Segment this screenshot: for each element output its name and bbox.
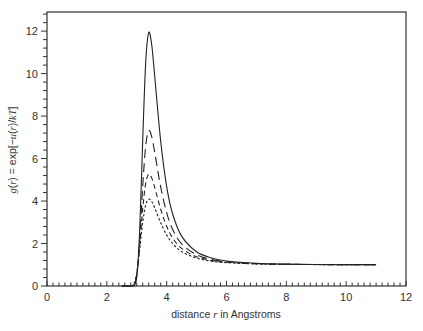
- x-tick-label: 12: [400, 291, 412, 303]
- x-tick-label: 0: [44, 291, 50, 303]
- y-tick-label: 12: [26, 25, 38, 37]
- y-axis-label: g(r) = exp[−u(r)/kT]: [6, 106, 18, 193]
- y-tick-label: 8: [32, 110, 38, 122]
- x-tick-label: 8: [283, 291, 289, 303]
- curve-dotted: [122, 199, 376, 286]
- y-axis: 024681012: [26, 14, 47, 292]
- x-tick-label: 6: [223, 291, 229, 303]
- y-tick-label: 10: [26, 68, 38, 80]
- x-tick-label: 10: [340, 291, 352, 303]
- curve-medium-dash: [122, 174, 376, 286]
- x-tick-label: 2: [104, 291, 110, 303]
- y-tick-label: 6: [32, 153, 38, 165]
- y-tick-label: 2: [32, 238, 38, 250]
- curve-solid: [122, 32, 376, 286]
- plot-frame: [47, 12, 406, 286]
- x-axis-label: distance r in Angstroms: [171, 308, 281, 320]
- chart: 024681012 024681012 distance r in Angstr…: [0, 0, 423, 331]
- y-tick-label: 0: [32, 280, 38, 292]
- axes-box: [47, 12, 406, 286]
- x-axis: 024681012: [44, 281, 412, 303]
- y-tick-label: 4: [32, 195, 38, 207]
- plot-curves: [122, 32, 376, 286]
- x-tick-label: 4: [164, 291, 170, 303]
